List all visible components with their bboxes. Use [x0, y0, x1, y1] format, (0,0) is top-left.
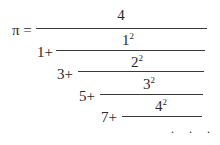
fraction-bar-2	[78, 71, 204, 72]
prefix-2: 3+	[57, 67, 73, 82]
numerator-4: 42	[155, 99, 167, 114]
fraction-bar-3	[100, 94, 203, 95]
numerator-3: 32	[143, 77, 155, 92]
fraction-bar-0	[36, 28, 207, 29]
numerator-2: 22	[131, 55, 143, 70]
continuation-ellipsis: . . .	[171, 123, 216, 135]
pi-equals-label: π =	[12, 23, 32, 38]
prefix-3: 5+	[79, 89, 95, 104]
prefix-4: 7+	[101, 110, 117, 125]
numerator-1: 12	[122, 33, 134, 48]
numerator-0: 4	[117, 8, 125, 23]
fraction-bar-4	[122, 116, 202, 117]
prefix-1: 1+	[37, 45, 53, 60]
fraction-bar-1	[56, 50, 205, 51]
